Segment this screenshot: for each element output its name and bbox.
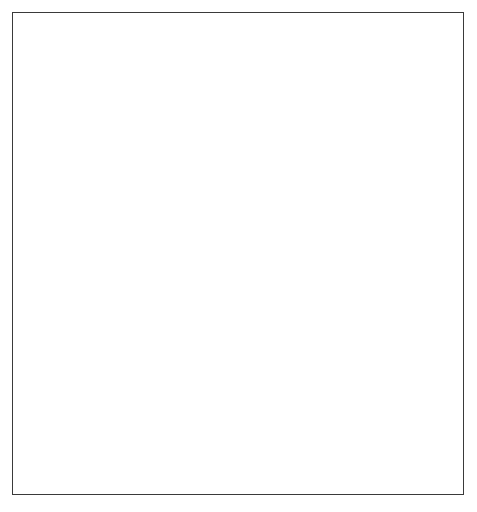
diagram-canvas: ACQUIRE KNOWLEDGE PERFORM ASSESSMENT MAN… (0, 0, 477, 512)
diagram-frame-border (12, 12, 464, 495)
